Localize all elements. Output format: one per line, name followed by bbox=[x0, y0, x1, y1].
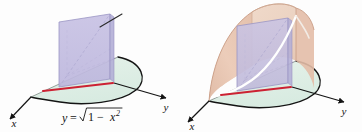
right-panel: x y bbox=[188, 4, 347, 132]
left-panel: x y y = 1 − x 2 bbox=[10, 14, 169, 129]
caption-equation: y = 1 − x 2 bbox=[61, 108, 122, 125]
equation-radicand-var: x bbox=[109, 110, 116, 124]
x-axis-label-right: x bbox=[189, 120, 195, 132]
cross-section-side-face-left bbox=[110, 14, 114, 82]
equation-exponent: 2 bbox=[116, 109, 120, 118]
equation-minus: − bbox=[97, 110, 104, 124]
y-axis-label-right: y bbox=[341, 105, 347, 117]
equation-equals: = bbox=[70, 111, 77, 125]
figure-container: x y y = 1 − x 2 bbox=[0, 0, 362, 132]
y-axis-label-left: y bbox=[163, 101, 169, 113]
equation-lhs: y bbox=[61, 111, 68, 125]
x-axis-label-left: x bbox=[11, 117, 17, 129]
x-axis-right bbox=[188, 101, 209, 122]
x-axis-left bbox=[10, 97, 31, 119]
equation-radicand-first: 1 bbox=[88, 110, 94, 124]
textbook-figure: x y y = 1 − x 2 bbox=[0, 0, 362, 132]
